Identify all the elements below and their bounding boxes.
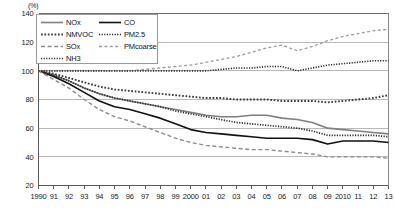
x-tick-label: 01: [202, 192, 210, 201]
y-tick-label: 80: [26, 95, 34, 104]
x-tick-label: 09: [324, 192, 332, 201]
emissions-index-line-chart: (%) 20406080100120140 199091929394959697…: [0, 0, 394, 208]
legend-item-nmvoc: NMVOC: [41, 29, 93, 40]
legend-swatch-pm25: [99, 30, 121, 39]
x-tick-label: 07: [293, 192, 301, 201]
x-tick-label: 98: [156, 192, 164, 201]
y-tick-label: 60: [26, 124, 34, 133]
x-tick-label: 04: [248, 192, 256, 201]
series-line-nmvoc: [39, 71, 389, 103]
y-tick-label: 100: [22, 67, 34, 76]
x-tick-label: 12: [369, 192, 377, 201]
x-tick-label: 2000: [183, 192, 199, 201]
x-tick-label: 91: [50, 192, 58, 201]
x-tick-label: 02: [217, 192, 225, 201]
legend-label-pm25: PM2.5: [124, 30, 145, 39]
x-tick-label: 95: [111, 192, 119, 201]
legend-item-sox: SOx: [41, 41, 80, 52]
series-line-sox: [39, 71, 389, 158]
legend-swatch-co: [99, 18, 121, 27]
legend-swatch-nox: [41, 18, 63, 27]
x-tick-label: 08: [308, 192, 316, 201]
y-axis-tick-labels: 20406080100120140: [22, 9, 34, 190]
x-tick-label: 11: [354, 192, 361, 201]
legend-label-nmvoc: NMVOC: [66, 30, 93, 39]
x-tick-label: 94: [95, 192, 103, 201]
legend-swatch-pmcoarse: [99, 42, 121, 51]
y-tick-label: 120: [22, 38, 34, 47]
x-tick-label: 2010: [335, 192, 351, 201]
legend-label-nh3: NH3: [66, 54, 81, 63]
legend-swatch-sox: [41, 42, 63, 51]
x-tick-label: 06: [278, 192, 286, 201]
x-tick-label: 03: [232, 192, 240, 201]
legend-item-pmcoarse: PMcoarse: [99, 41, 157, 52]
legend-swatch-nh3: [41, 54, 63, 63]
legend-label-nox: NOx: [66, 18, 81, 27]
chart-legend: NOx NMVOC SOx NH3: [36, 14, 158, 64]
series-line-co: [39, 71, 389, 144]
y-tick-label: 40: [26, 153, 34, 162]
x-tick-label: 05: [263, 192, 271, 201]
legend-swatch-nmvoc: [41, 30, 63, 39]
y-tick-label: 140: [22, 9, 34, 18]
legend-item-nh3: NH3: [41, 53, 81, 64]
x-tick-label: 1990: [31, 192, 47, 201]
legend-item-pm25: PM2.5: [99, 29, 145, 40]
legend-item-co: CO: [99, 17, 135, 28]
x-tick-label: 97: [141, 192, 149, 201]
x-tick-label: 13: [385, 192, 393, 201]
legend-item-nox: NOx: [41, 17, 81, 28]
legend-label-pmcoarse: PMcoarse: [124, 42, 157, 51]
x-tick-label: 92: [65, 192, 73, 201]
x-tick-label: 96: [126, 192, 134, 201]
legend-label-sox: SOx: [66, 42, 80, 51]
x-tick-label: 93: [80, 192, 88, 201]
y-tick-label: 20: [26, 181, 34, 190]
legend-label-co: CO: [124, 18, 135, 27]
x-axis-tick-labels: 1990919293949596979899200001020304050607…: [31, 192, 393, 201]
x-tick-label: 99: [171, 192, 179, 201]
